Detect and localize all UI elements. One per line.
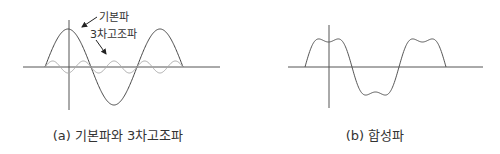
harmonic-arrow [96,40,106,54]
caption-b: (b) 합성파 [346,125,405,144]
third-harmonic-label: 3차고조파 [90,25,137,41]
caption-a: (a) 기본파와 3차고조파 [53,125,184,144]
fundamental-label: 기본파 [99,8,129,24]
